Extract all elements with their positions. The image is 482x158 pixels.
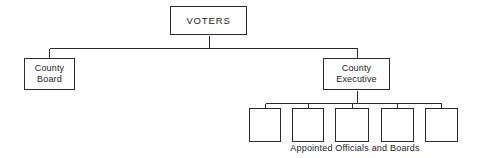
appointed-box-1[interactable]: [249, 108, 281, 142]
node-county-board-label: County Board: [25, 63, 74, 84]
node-county-board[interactable]: County Board: [24, 58, 75, 90]
node-county-executive[interactable]: County Executive: [323, 58, 390, 90]
node-voters-label: VOTERS: [171, 15, 246, 26]
node-voters[interactable]: VOTERS: [170, 6, 247, 35]
appointed-officials-caption: Appointed Officials and Boards: [288, 143, 422, 153]
appointed-box-4[interactable]: [381, 108, 414, 142]
organization-chart: VOTERS County Board County Executive App…: [0, 0, 482, 158]
appointed-box-3[interactable]: [335, 108, 369, 142]
node-county-executive-label: County Executive: [324, 63, 389, 84]
appointed-box-5[interactable]: [425, 108, 458, 142]
appointed-box-2[interactable]: [292, 108, 324, 142]
